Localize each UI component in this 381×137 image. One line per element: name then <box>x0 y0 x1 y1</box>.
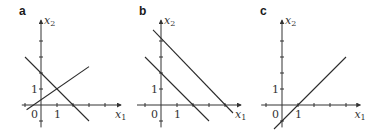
origin-label: 0 <box>31 108 38 121</box>
y-tick-label-1: 1 <box>31 83 38 96</box>
x-tick-label-1: 1 <box>174 108 181 121</box>
x1-axis-label: x1 <box>235 108 246 122</box>
origin-label: 0 <box>272 108 279 121</box>
linear-systems-figure: a011x1x2 b011x1x2 c011x1x2 <box>0 0 381 137</box>
panel-label: c <box>260 4 267 18</box>
panel-b: b011x1x2 <box>137 4 246 127</box>
origin-label: 0 <box>151 108 158 121</box>
line-x2-eq-x1-minus-1 <box>274 57 346 129</box>
panel-label: b <box>139 4 146 18</box>
panel-c: c011x1x2 <box>260 4 366 129</box>
x2-axis-label: x2 <box>164 14 175 28</box>
panel-a: a011x1x2 <box>19 4 126 127</box>
x2-axis-label: x2 <box>285 14 296 28</box>
x1-axis-label: x1 <box>354 108 365 122</box>
x1-axis-label: x1 <box>115 108 126 122</box>
line-x2-eq-4-minus-x1 <box>153 30 233 113</box>
panel-label: a <box>19 4 26 18</box>
y-tick-label-1: 1 <box>151 83 158 96</box>
x-tick-label-1: 1 <box>295 108 302 121</box>
x2-axis-label: x2 <box>44 14 55 28</box>
x-tick-label-1: 1 <box>54 108 61 121</box>
y-tick-label-1: 1 <box>272 83 279 96</box>
